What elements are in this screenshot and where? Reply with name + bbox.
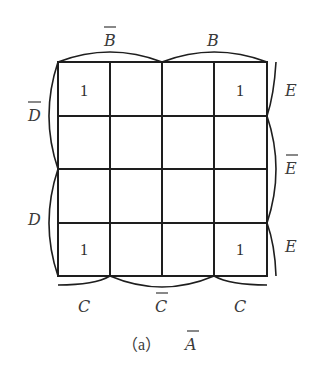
bracket-right-e-top [267,62,276,116]
label-e-bottom: E [284,237,297,256]
cell-r0-c3: 1 [236,82,244,99]
cell-r3-c3: 1 [236,241,244,258]
top-labels: B B [103,27,219,50]
caption-variable: A [183,335,197,354]
label-d-bar: D [27,106,41,125]
bracket-bottom-c-left [58,276,110,285]
label-c-left: C [78,297,90,316]
bracket-right-e-bar [267,116,276,223]
label-b: B [206,31,219,50]
bracket-top-b [162,52,267,62]
bracket-left-d [49,169,58,276]
bracket-bottom-c-right [214,276,267,285]
label-d: D [27,210,41,229]
bracket-bottom-c-bar [110,276,214,287]
right-labels: E E E [284,81,298,256]
label-c-bar: C [155,297,167,316]
bracket-left-d-bar [49,62,58,169]
label-e-top: E [284,81,297,100]
label-c-right: C [234,297,246,316]
bracket-top-b-bar [58,52,162,62]
figure-caption: （a） A [122,331,199,354]
karnaugh-map-svg: B B D D E E E C C C 1 1 [0,0,325,379]
label-e-bar: E [284,159,297,178]
caption-prefix: （a） [122,336,161,353]
bracket-right-e-bottom [267,223,276,276]
cell-r3-c0: 1 [80,241,88,258]
cell-r0-c0: 1 [80,82,88,99]
label-b-bar: B [103,31,116,50]
left-labels: D D [27,102,41,229]
bottom-labels: C C C [78,293,246,316]
karnaugh-map-figure: B B D D E E E C C C 1 1 [0,0,325,379]
